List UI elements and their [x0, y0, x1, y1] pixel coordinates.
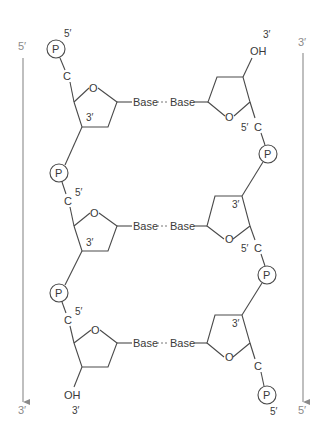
left-direction-bottom-label: 3′ [18, 404, 26, 416]
hydroxyl-label: OH [250, 45, 267, 57]
right-top-end-label: 3′ [263, 29, 271, 40]
right-direction-bottom-label: 5′ [298, 404, 306, 416]
right-base-label: Base [170, 337, 195, 349]
base-pair-row: Base Base [133, 337, 195, 349]
carbon-label: C [64, 195, 72, 207]
right-base-label: Base [170, 96, 195, 108]
phosphate-label: P [52, 43, 59, 55]
carbon-label: C [63, 70, 71, 82]
right-strand: 3′ OH O 5′ C P 3′ O 5′ C P 3′ O C P 5′ [194, 29, 278, 417]
phosphate-label: P [55, 167, 62, 179]
carbon-label: C [64, 314, 72, 326]
carbon-label: C [254, 360, 262, 372]
carbon-3prime-label: 3′ [232, 318, 240, 329]
base-pair-row: Base Base [133, 220, 195, 232]
carbon-5prime-label: 5′ [75, 306, 83, 317]
right-strand-direction-arrow: 3′ 5′ [298, 36, 306, 416]
oxygen-label: O [225, 233, 234, 245]
phosphate-label: P [263, 269, 270, 281]
left-bottom-end-label: 3′ [72, 405, 80, 416]
carbon-5prime-label: 5′ [241, 243, 249, 254]
left-top-end-label: 5′ [64, 28, 72, 39]
carbon-label: C [254, 242, 262, 254]
carbon-label: C [254, 121, 262, 133]
phosphate-label: P [55, 287, 62, 299]
phosphate-label: P [263, 389, 270, 401]
oxygen-label: O [89, 82, 98, 94]
base-pair-row: Base Base [133, 96, 195, 108]
carbon-5prime-label: 5′ [75, 187, 83, 198]
left-direction-top-label: 5′ [18, 40, 26, 52]
left-base-label: Base [133, 220, 158, 232]
left-base-label: Base [133, 337, 158, 349]
oxygen-label: O [91, 324, 100, 336]
carbon-5prime-label: 5′ [241, 122, 249, 133]
left-strand-direction-arrow: 5′ 3′ [18, 40, 26, 416]
left-base-label: Base [133, 96, 158, 108]
oxygen-label: O [225, 111, 234, 123]
carbon-3prime-label: 3′ [86, 112, 94, 123]
oxygen-label: O [90, 207, 99, 219]
right-direction-top-label: 3′ [298, 36, 306, 48]
phosphate-label: P [264, 148, 271, 160]
dna-double-strand-diagram: 5′ 3′ 3′ 5′ P 5′ C O 3′ P C 5′ O 3′ [0, 0, 325, 427]
right-bottom-end-label: 5′ [270, 406, 278, 417]
right-base-label: Base [170, 220, 195, 232]
carbon-3prime-label: 3′ [232, 199, 240, 210]
oxygen-label: O [225, 351, 234, 363]
carbon-3prime-label: 3′ [86, 237, 94, 248]
left-strand: P 5′ C O 3′ P C 5′ O 3′ P C 5′ O [47, 28, 132, 416]
hydroxyl-label: OH [64, 389, 81, 401]
